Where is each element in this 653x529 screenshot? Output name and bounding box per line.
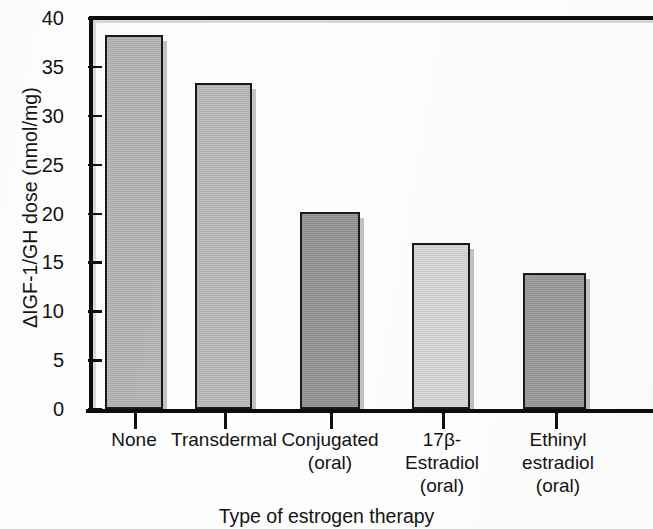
x-category-label-line: estradiol	[498, 451, 618, 474]
x-tick-mark	[442, 413, 445, 429]
y-tick-mark	[88, 115, 102, 118]
x-category-label-line: (oral)	[270, 451, 390, 474]
bar-scan-texture	[302, 214, 358, 407]
y-tick-mark	[88, 66, 102, 69]
x-category-label: 17β-Estradiol(oral)	[382, 428, 502, 497]
y-tick-mark	[88, 261, 102, 264]
y-tick-mark	[88, 359, 102, 362]
bar-scan-texture	[525, 275, 584, 407]
figure-canvas: 0510152025303540 ΔIGF-1/GH dose (nmol/mg…	[0, 0, 653, 529]
y-tick-mark	[88, 164, 102, 167]
x-tick-mark	[134, 413, 137, 429]
x-category-label-line: 17β-	[382, 428, 502, 451]
bar	[300, 212, 360, 409]
x-axis-line	[86, 409, 653, 413]
x-category-label-line: Conjugated	[270, 428, 390, 451]
x-category-label-line: Estradiol	[382, 451, 502, 474]
bar	[195, 83, 252, 409]
x-tick-mark	[555, 413, 558, 429]
y-tick-mark	[88, 408, 102, 411]
x-category-label: Transdermal	[164, 428, 284, 451]
x-category-label-line: Ethinyl	[498, 428, 618, 451]
x-category-label-line: (oral)	[382, 474, 502, 497]
x-category-label: Ethinylestradiol(oral)	[498, 428, 618, 497]
bar	[523, 273, 586, 409]
x-category-label: Conjugated(oral)	[270, 428, 390, 474]
bar	[105, 35, 163, 409]
bar	[412, 243, 470, 409]
x-tick-mark	[224, 413, 227, 429]
bar-scan-texture	[107, 37, 161, 407]
x-axis-title: Type of estrogen therapy	[0, 505, 653, 528]
bar-scan-texture	[414, 245, 468, 407]
bar-scan-texture	[197, 85, 250, 407]
y-tick-mark	[88, 17, 102, 20]
x-category-label-line: (oral)	[498, 474, 618, 497]
y-axis-title: ΔIGF-1/GH dose (nmol/mg)	[19, 12, 42, 404]
y-tick-mark	[88, 213, 102, 216]
x-tick-mark	[330, 413, 333, 429]
x-category-label-line: Transdermal	[164, 428, 284, 451]
y-tick-mark	[88, 310, 102, 313]
